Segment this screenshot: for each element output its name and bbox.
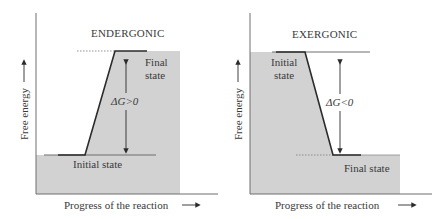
exergonic-initial-state-label: Initial bbox=[271, 56, 297, 68]
exergonic-final-state-label: Final state bbox=[344, 162, 390, 174]
endergonic-title: ENDERGONIC bbox=[91, 27, 165, 39]
endergonic-y-axis-label: Free energy bbox=[18, 87, 30, 140]
endergonic-final-state-label: Final bbox=[145, 56, 168, 68]
energy-diagram-figure: ENDERGONIC Final state ΔG>0 Initial stat… bbox=[0, 0, 448, 219]
exergonic-initial-state-label-line2: state bbox=[274, 69, 294, 81]
endergonic-x-axis-label: Progress of the reaction bbox=[64, 199, 169, 211]
endergonic-delta-g-label: ΔG>0 bbox=[110, 95, 139, 107]
exergonic-delta-g-label: ΔG<0 bbox=[325, 96, 354, 108]
exergonic-y-axis-label: Free energy bbox=[232, 87, 244, 140]
exergonic-panel: EXERGONIC Initial state ΔG<0 Final state… bbox=[232, 13, 432, 211]
exergonic-x-axis-label: Progress of the reaction bbox=[275, 199, 380, 211]
endergonic-final-state-label-line2: state bbox=[145, 69, 165, 81]
endergonic-panel: ENDERGONIC Final state ΔG>0 Initial stat… bbox=[18, 13, 218, 211]
exergonic-title: EXERGONIC bbox=[292, 28, 357, 40]
endergonic-initial-state-label: Initial state bbox=[73, 158, 122, 170]
